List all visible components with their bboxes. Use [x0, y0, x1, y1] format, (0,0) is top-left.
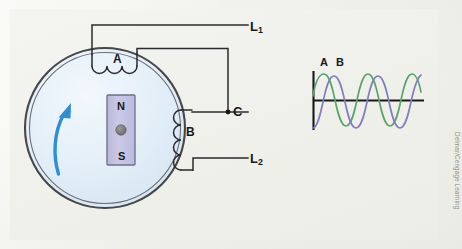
diagram-canvas	[0, 0, 462, 249]
terminal-l2-label: L2	[250, 152, 263, 167]
terminal-l1-label: L1	[250, 20, 263, 35]
terminal-c-label: C	[233, 105, 242, 118]
winding-b-label: B	[186, 126, 195, 138]
wire-b-to-l2	[193, 158, 248, 170]
credit-text: Delmar/Cengage Learning	[454, 132, 461, 209]
junction-dot-c	[226, 110, 231, 115]
winding-a-label: A	[113, 53, 122, 65]
magnet-north-label: N	[117, 101, 125, 112]
magnet-south-label: S	[118, 151, 125, 162]
figure-container: L1 C L2 A B N S A B Delmar/Cengage Learn…	[0, 0, 462, 249]
chart-legend-b: B	[336, 57, 344, 68]
chart-legend-a: A	[320, 57, 328, 68]
waveform-chart	[313, 71, 424, 130]
rotor-shaft	[116, 125, 126, 135]
